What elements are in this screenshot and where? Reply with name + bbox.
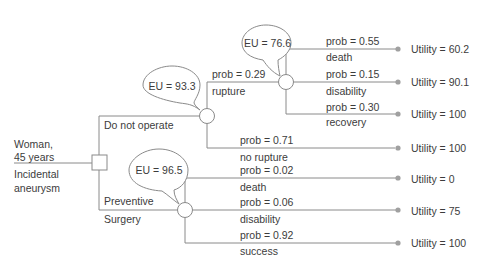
surgery-death-label: death bbox=[240, 181, 266, 193]
branch-surgery-label-line1: Preventive bbox=[104, 195, 154, 207]
no-rupture-utility: Utility = 100 bbox=[411, 142, 466, 154]
rupture-recovery-prob: prob = 0.30 bbox=[326, 101, 379, 113]
patient-label-line1: Woman, bbox=[14, 138, 53, 150]
surgery-disability-prob: prob = 0.06 bbox=[240, 196, 293, 208]
no-rupture-label: no rupture bbox=[240, 151, 288, 163]
eu-bubble-no-op: EU = 93.3 bbox=[146, 80, 198, 92]
eu-bubble-rupture: EU = 76.6 bbox=[244, 37, 290, 49]
eu-bubble-surgery: EU = 96.5 bbox=[132, 164, 186, 176]
condition-label-line2: aneurysm bbox=[14, 182, 60, 194]
rupture-disability-label: disability bbox=[326, 85, 366, 97]
rupture-death-label: death bbox=[326, 51, 352, 63]
surgery-death-prob: prob = 0.02 bbox=[240, 164, 293, 176]
patient-label-line2: 45 years bbox=[14, 151, 54, 163]
branch-do-not-operate-label: Do not operate bbox=[104, 119, 173, 131]
condition-label-line1: Incidental bbox=[14, 168, 59, 180]
rupture-recovery-utility: Utility = 100 bbox=[411, 108, 466, 120]
branch-surgery-label-line2: Surgery bbox=[104, 213, 141, 225]
surgery-success-utility: Utility = 100 bbox=[411, 237, 466, 249]
surgery-disability-label: disability bbox=[240, 213, 280, 225]
surgery-success-prob: prob = 0.92 bbox=[240, 229, 293, 241]
rupture-recovery-label: recovery bbox=[326, 116, 366, 128]
rupture-prob: prob = 0.29 bbox=[212, 68, 265, 80]
surgery-death-utility: Utility = 0 bbox=[411, 173, 454, 185]
rupture-disability-prob: prob = 0.15 bbox=[326, 68, 379, 80]
surgery-disability-utility: Utility = 75 bbox=[411, 205, 460, 217]
rupture-death-utility: Utility = 60.2 bbox=[411, 43, 469, 55]
rupture-label: rupture bbox=[212, 85, 245, 97]
rupture-disability-utility: Utility = 90.1 bbox=[411, 76, 469, 88]
rupture-death-prob: prob = 0.55 bbox=[326, 35, 379, 47]
surgery-success-label: success bbox=[240, 245, 278, 257]
no-rupture-prob: prob = 0.71 bbox=[240, 134, 293, 146]
